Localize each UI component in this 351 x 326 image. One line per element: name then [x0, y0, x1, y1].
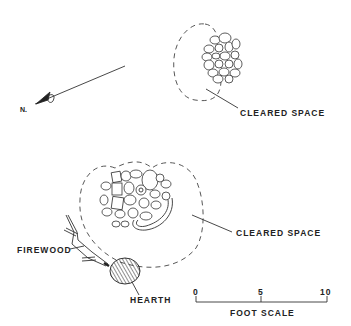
upper-cleared-space-label: CLEARED SPACE: [240, 108, 325, 118]
scale-label: FOOT SCALE: [230, 308, 295, 318]
hearth-label: HEARTH: [130, 295, 171, 305]
north-label: N.: [20, 106, 27, 113]
lower-cleared-space: [80, 162, 232, 267]
hearth-icon: [110, 258, 140, 284]
scale-tick-0: 0: [193, 287, 199, 297]
site-plan-diagram: N. CLEARED SPACE: [0, 0, 351, 326]
lower-rock-cluster: [100, 170, 172, 230]
firewood-icon: [64, 215, 109, 266]
lower-cleared-space-label: CLEARED SPACE: [236, 228, 321, 238]
upper-rock-cluster: [202, 33, 242, 83]
scale-tick-10: 10: [320, 287, 331, 297]
north-arrow-icon: [35, 66, 125, 104]
scale-tick-5: 5: [258, 287, 264, 297]
upper-cleared-space: [174, 24, 242, 108]
firewood-label: FIREWOOD: [17, 245, 72, 255]
